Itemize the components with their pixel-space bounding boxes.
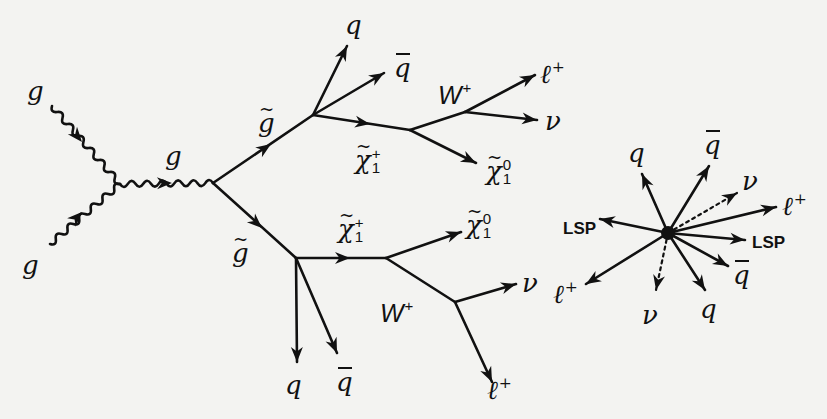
- star-line-lepton-right: [668, 207, 776, 233]
- star-line-nu-up: [668, 193, 737, 233]
- label-star-lsp-right: LSP: [752, 234, 785, 251]
- neutralino-line-lower: [386, 232, 461, 258]
- label-w-upper: W+: [438, 80, 471, 108]
- quark-line-lower: [296, 258, 297, 362]
- feynman-diagram: g g g g q q χ+1 W+ χ01 ℓ+ ν g q q χ+1 χ0…: [0, 0, 827, 419]
- lepton-line-upper: [465, 75, 535, 112]
- gluon-line-incoming-upper: [52, 106, 120, 184]
- label-gluon-propagator: g: [165, 143, 182, 169]
- label-star-qbar-up: q: [704, 132, 721, 158]
- arrowhead-icon: [68, 127, 82, 142]
- diagram-canvas: [0, 0, 827, 419]
- arrowhead-icon: [368, 73, 384, 86]
- label-gluino-upper: g: [258, 110, 275, 136]
- label-star-qbar-down: q: [733, 262, 750, 288]
- label-gluon-in-lower: g: [22, 252, 39, 278]
- label-w-lower: W+: [380, 298, 413, 326]
- label-lepton-lower: ℓ+: [487, 376, 512, 403]
- label-star-nu-down: ν: [642, 302, 658, 328]
- label-star-lepton-left: ℓ+: [553, 280, 578, 307]
- label-neutralino-lower: χ01: [466, 212, 491, 241]
- star-line-lepton-left: [586, 233, 668, 284]
- label-quark-lower: q: [285, 372, 302, 398]
- label-gluino-lower: g: [232, 240, 249, 266]
- label-star-lsp-left: LSP: [563, 220, 596, 237]
- arrowheads: [67, 46, 776, 382]
- label-star-nu-up: ν: [742, 168, 758, 194]
- label-antiquark-lower: q: [336, 369, 353, 395]
- lepton-line-lower: [455, 302, 492, 382]
- arrowhead-icon: [696, 166, 709, 182]
- arrowhead-icon: [721, 193, 737, 206]
- label-neutralino-upper: χ01: [486, 158, 511, 187]
- arrowhead-icon: [692, 274, 705, 290]
- label-star-q-down: q: [700, 296, 717, 322]
- label-quark-upper: q: [345, 12, 362, 38]
- label-antiquark-upper: q: [394, 55, 411, 81]
- w-line-lower: [386, 258, 455, 302]
- arrowhead-icon: [586, 271, 602, 284]
- gluon-line-incoming-lower: [50, 184, 120, 245]
- neutralino-line-upper: [410, 130, 476, 163]
- label-star-q-up: q: [628, 140, 645, 166]
- star-line-qbar-up: [668, 166, 709, 233]
- label-neutrino-upper: ν: [545, 108, 561, 134]
- label-gluon-in-upper: g: [27, 78, 44, 104]
- w-line-upper: [410, 112, 465, 130]
- label-chargino-lower: χ+1: [338, 216, 364, 245]
- arrowhead-icon: [255, 144, 271, 157]
- label-chargino-upper: χ+1: [355, 147, 381, 176]
- interaction-point: [661, 226, 675, 240]
- label-star-lepton-right: ℓ+: [782, 192, 807, 219]
- antiquark-line-lower: [296, 258, 337, 353]
- label-lepton-upper: ℓ+: [540, 60, 565, 87]
- label-neutrino-lower: ν: [522, 270, 538, 296]
